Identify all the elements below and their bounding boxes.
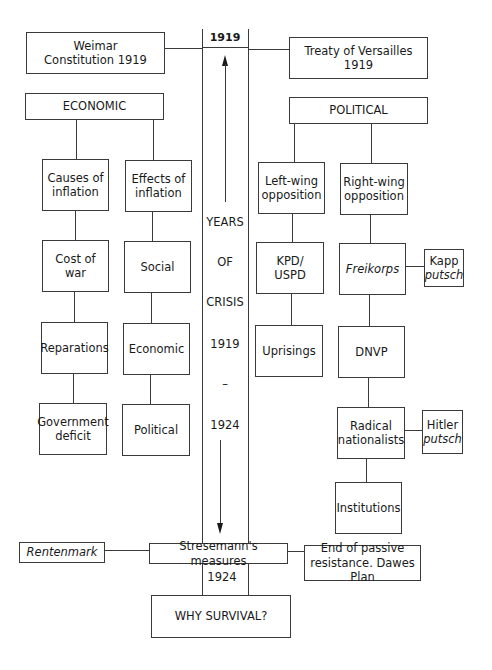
- right-wing-opposition-box: Right-wingopposition: [340, 163, 408, 215]
- connector-economic-causes: [76, 119, 77, 160]
- weimar-constitution-box: WeimarConstitution 1919: [26, 32, 165, 74]
- treaty-of-versailles-box: Treaty of Versailles1919: [289, 37, 428, 79]
- effects-of-inflation-box: Effects ofinflation: [125, 160, 192, 212]
- connector-right-2: [369, 294, 370, 327]
- connector-economic-effects: [153, 119, 154, 161]
- connector-left-2: [291, 293, 292, 326]
- connector-right-1: [370, 214, 371, 244]
- arrow-down-shaft: [220, 440, 221, 524]
- connector-freikorps-kapp: [405, 266, 424, 267]
- connector-effects-1: [152, 211, 153, 242]
- stresemann-measures-box: Stresemann's measures: [149, 543, 288, 564]
- connector-rentenmark-stresemann: [104, 550, 149, 551]
- connector-right-3: [368, 377, 369, 408]
- connector-causes-1: [75, 210, 76, 241]
- year-start-label: 1919: [202, 31, 248, 44]
- hitler-putsch-box: Hitlerputsch: [422, 410, 463, 454]
- kpd-uspd-box: KPD/USPD: [256, 242, 324, 294]
- arrow-up-shaft: [225, 64, 226, 202]
- causes-of-inflation-box: Causes ofinflation: [42, 159, 109, 211]
- connector-stresemann-endpassive: [287, 551, 305, 552]
- reparations-box: Reparations: [41, 322, 108, 374]
- arrow-down-icon: [217, 523, 223, 534]
- column-label-1919: 1919: [202, 337, 248, 351]
- connector-radical-hitler: [404, 430, 422, 431]
- connector-weimar-column: [164, 48, 202, 49]
- why-survival-box: WHY SURVIVAL?: [151, 595, 291, 638]
- column-label-of: OF: [202, 255, 248, 269]
- connector-effects-3: [150, 374, 151, 405]
- connector-political-right: [371, 123, 372, 164]
- connector-column-versailles: [249, 49, 289, 50]
- connector-left-1: [292, 213, 293, 243]
- connector-effects-2: [151, 292, 152, 324]
- government-deficit-box: Governmentdeficit: [39, 403, 107, 455]
- political-effects-box: Political: [122, 404, 190, 456]
- radical-nationalists-box: Radicalnationalists: [337, 407, 405, 459]
- column-label-dash: –: [202, 377, 248, 391]
- rentenmark-box: Rentenmark: [19, 542, 105, 563]
- political-heading-box: POLITICAL: [289, 97, 428, 124]
- left-wing-opposition-box: Left-wingopposition: [258, 162, 325, 214]
- freikorps-box: Freikorps: [339, 243, 406, 295]
- kapp-putsch-box: Kappputsch: [424, 249, 464, 287]
- uprisings-box: Uprisings: [255, 325, 323, 377]
- dnvp-box: DNVP: [338, 326, 405, 378]
- year-start-divider: [202, 47, 249, 48]
- year-end-label: 1924: [199, 570, 245, 584]
- connector-causes-3: [73, 373, 74, 404]
- economic-heading-box: ECONOMIC: [25, 93, 164, 120]
- column-label-years: YEARS: [202, 215, 248, 229]
- connector-causes-2: [74, 291, 75, 323]
- connector-right-4: [366, 458, 367, 483]
- column-label-crisis: CRISIS: [202, 295, 248, 309]
- end-passive-resistance-box: End of passiveresistance. Dawes Plan: [304, 545, 421, 581]
- connector-political-left: [294, 123, 295, 163]
- column-label-1924: 1924: [202, 418, 248, 432]
- economic-effects-box: Economic: [123, 323, 190, 375]
- cost-of-war-box: Cost of war: [42, 240, 109, 292]
- institutions-box: Institutions: [335, 482, 402, 534]
- social-box: Social: [124, 241, 191, 293]
